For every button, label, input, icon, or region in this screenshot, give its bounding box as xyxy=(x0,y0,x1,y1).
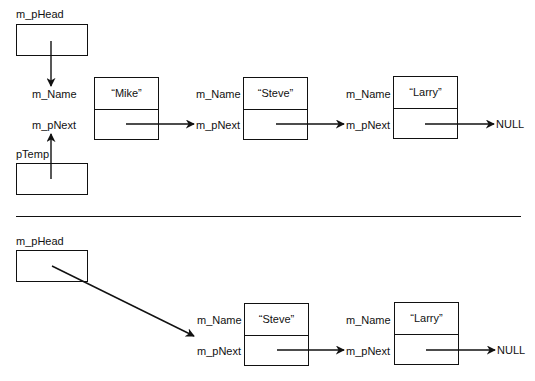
arrow-head-to-steve xyxy=(52,266,194,336)
pointer-arrows xyxy=(0,0,535,381)
